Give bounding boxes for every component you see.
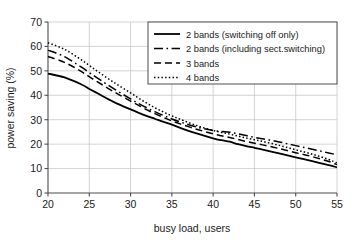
x-tick-label: 55 — [331, 198, 343, 210]
x-tick-label: 25 — [83, 198, 95, 210]
y-tick-label: 40 — [30, 89, 42, 101]
x-tick-label: 50 — [290, 198, 302, 210]
x-tick-label: 30 — [125, 198, 137, 210]
power-saving-line-chart: 010203040506070 2025303540455055 busy lo… — [0, 0, 357, 242]
legend-label-4: 4 bands — [186, 73, 219, 83]
y-axis-title: power saving (%) — [4, 67, 16, 148]
y-tick-label: 50 — [30, 65, 42, 77]
x-tick-label: 45 — [249, 198, 261, 210]
y-tick-label: 30 — [30, 114, 42, 126]
chart-figure: 010203040506070 2025303540455055 busy lo… — [0, 0, 357, 242]
y-tick-label: 20 — [30, 138, 42, 150]
x-tick-label: 40 — [207, 198, 219, 210]
legend-label-1: 2 bands (switching off only) — [186, 30, 298, 40]
x-tick-label: 20 — [42, 198, 54, 210]
y-tick-label: 10 — [30, 162, 42, 174]
legend-label-2: 2 bands (including sect.switching) — [186, 44, 325, 54]
x-axis-title: busy load, users — [154, 222, 230, 234]
y-tick-label: 0 — [36, 187, 42, 199]
y-tick-label: 60 — [30, 40, 42, 52]
y-tick-label: 70 — [30, 16, 42, 28]
legend-label-3: 3 bands — [186, 59, 219, 69]
chart-legend: 2 bands (switching off only)2 bands (inc… — [148, 22, 337, 84]
x-tick-label: 35 — [166, 198, 178, 210]
